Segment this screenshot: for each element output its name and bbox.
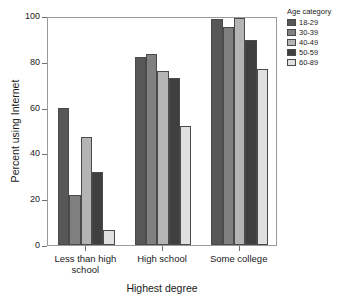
- bar: [169, 78, 180, 245]
- bar: [135, 57, 146, 245]
- x-axis-title: Highest degree: [47, 282, 277, 294]
- y-tick-label: 40: [30, 148, 40, 159]
- bar: [58, 108, 69, 245]
- y-tick-label: 60: [30, 103, 40, 114]
- legend-rows: 18-2930-3940-4950-5960-89: [287, 18, 344, 67]
- y-tick-label: 0: [35, 240, 40, 251]
- bar: [146, 54, 157, 245]
- bar: [234, 18, 245, 245]
- bar: [81, 137, 92, 245]
- legend-item[interactable]: 50-59: [287, 48, 344, 57]
- legend: Age category 18-2930-3940-4950-5960-89: [287, 7, 344, 68]
- bar: [223, 27, 234, 245]
- legend-item[interactable]: 18-29: [287, 18, 344, 27]
- y-axis-title: Percent using Internet: [9, 46, 21, 216]
- legend-label: 18-29: [299, 18, 318, 27]
- legend-item[interactable]: 30-39: [287, 28, 344, 37]
- x-axis: Less than highschoolHigh schoolSome coll…: [47, 246, 277, 286]
- legend-swatch: [287, 29, 296, 36]
- y-axis: Percent using Internet 020406080100: [0, 17, 47, 247]
- bar-group: [211, 18, 268, 245]
- legend-swatch: [287, 39, 296, 46]
- legend-title: Age category: [287, 7, 344, 16]
- bar: [103, 230, 114, 245]
- bar-group: [135, 18, 192, 245]
- legend-swatch: [287, 59, 296, 66]
- y-tick-label: 100: [25, 11, 40, 22]
- bar: [92, 172, 103, 245]
- x-tick-mark: [162, 246, 163, 251]
- plot-area: [48, 18, 276, 245]
- legend-item[interactable]: 60-89: [287, 58, 344, 67]
- bar: [69, 195, 80, 245]
- bar: [211, 19, 222, 245]
- y-tick-label: 80: [30, 57, 40, 68]
- y-tick-label: 20: [30, 194, 40, 205]
- bar: [180, 126, 191, 245]
- x-tick-label: Some college: [194, 253, 284, 264]
- bar-chart: Percent using Internet 020406080100 Less…: [0, 0, 344, 303]
- bar-group: [58, 18, 115, 245]
- bar: [257, 69, 268, 245]
- legend-label: 40-49: [299, 38, 318, 47]
- x-tick-mark: [85, 246, 86, 251]
- bar: [245, 40, 256, 245]
- legend-item[interactable]: 40-49: [287, 38, 344, 47]
- x-tick-mark: [239, 246, 240, 251]
- plot-frame: [47, 17, 277, 246]
- legend-swatch: [287, 19, 296, 26]
- legend-label: 60-89: [299, 58, 318, 67]
- legend-swatch: [287, 49, 296, 56]
- legend-label: 50-59: [299, 48, 318, 57]
- bar: [157, 71, 168, 245]
- legend-label: 30-39: [299, 28, 318, 37]
